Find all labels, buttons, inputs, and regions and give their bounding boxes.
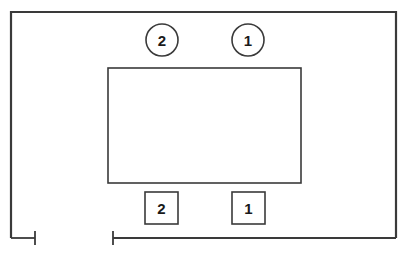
circle-callout-label-1: 1 [244,32,252,49]
outer-enclosure-outline [11,12,396,238]
drawing-canvas: 2121 [0,0,408,254]
box-callout-label-1: 1 [244,200,252,217]
circle-callout-label-2: 2 [158,32,166,49]
box-callout-label-2: 2 [157,200,165,217]
inner-panel-rectangle [108,68,301,183]
technical-drawing: 2121 [0,0,408,254]
